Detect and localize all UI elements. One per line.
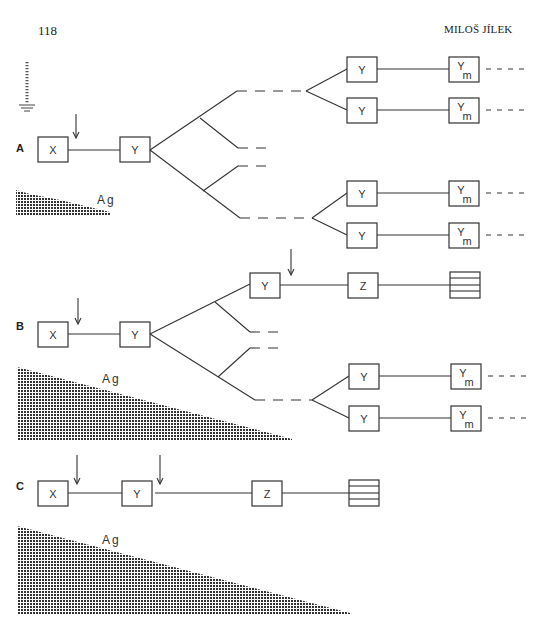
clone-row: Y Y m [347,98,526,123]
svg-text:Y: Y [131,329,139,341]
svg-text:Y: Y [358,64,366,76]
svg-text:X: X [49,144,57,156]
svg-text:Y: Y [358,230,366,242]
svg-text:Y: Y [360,371,368,383]
plasma-cell-icon [349,480,379,506]
antigen-label: Ag [97,193,116,207]
svg-text:Z: Z [264,488,271,500]
antigen-gradient [16,190,110,215]
svg-text:m: m [464,376,473,388]
clone-row: Y Y m [349,364,528,389]
lymphocyte-differentiation-figure: A X Y Y Y m Y [0,0,534,636]
svg-text:Y: Y [131,144,139,156]
svg-text:m: m [462,110,471,122]
panel-c: C X Y Z Ag [16,455,379,615]
clone-row: Y Y m [347,181,526,206]
svg-text:Y: Y [358,105,366,117]
svg-text:Y: Y [360,413,368,425]
ground-icon [19,62,35,111]
clone-row: Y Y m [347,57,526,82]
svg-text:X: X [49,329,57,341]
svg-text:m: m [464,418,473,430]
svg-text:Y: Y [358,188,366,200]
panel-label-b: B [16,320,24,332]
svg-text:X: X [49,488,57,500]
antigen-label: Ag [102,372,121,386]
panel-a: A X Y Y Y m Y [16,57,526,248]
svg-text:Z: Z [360,280,367,292]
clone-row: Y Y m [347,223,526,248]
svg-text:m: m [462,235,471,247]
svg-text:m: m [462,69,471,81]
panel-label-c: C [16,480,24,492]
plasma-cell-icon [450,272,480,298]
panel-b: B X Y Y Z Y [16,249,528,441]
svg-text:Y: Y [261,280,269,292]
antigen-gradient [17,526,350,615]
panel-label-a: A [16,142,24,154]
antigen-gradient [17,367,292,441]
clone-row: Y Y m [349,406,528,431]
svg-text:Y: Y [133,488,141,500]
svg-text:m: m [462,193,471,205]
antigen-label: Ag [102,533,121,547]
